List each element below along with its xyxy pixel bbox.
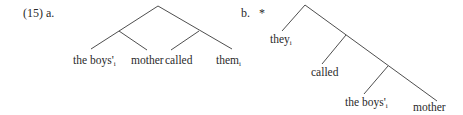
syntax-tree-figure: (15) a. b. * the boys'i mother called th… <box>0 0 463 115</box>
leaf-text: the boys' <box>345 96 386 108</box>
tree-b-edge-spine <box>305 5 437 101</box>
leaf-text: they <box>270 33 290 45</box>
tree-a-leaf-called: called <box>165 54 192 66</box>
coindex-subscript: i <box>239 60 241 68</box>
tree-a-leaf-the-boys: the boys'i <box>73 54 116 70</box>
ungrammatical-star: * <box>259 6 265 20</box>
example-number: (15) a. <box>23 7 54 19</box>
tree-a-leaf-them: themi <box>216 54 241 70</box>
tree-b-edge-root-they <box>282 5 305 31</box>
leaf-text: them <box>216 54 239 66</box>
tree-a-leaf-mother: mother <box>131 54 164 66</box>
coindex-subscript: i <box>114 60 116 68</box>
tree-a-edge-left-mother <box>119 31 147 50</box>
leaf-text: mother <box>131 54 164 66</box>
coindex-subscript: i <box>386 102 388 110</box>
example-number-text: (15) <box>23 6 43 20</box>
example-b-label: b. <box>241 6 250 20</box>
tree-b-leaf-the-boys: the boys'i <box>345 96 388 112</box>
tree-b-edge-boys <box>364 66 388 94</box>
tree-a-edge-root-right <box>158 6 232 49</box>
example-a-label: a. <box>46 6 54 20</box>
tree-a-edge-root-left <box>91 6 158 49</box>
leaf-text: called <box>165 54 192 66</box>
tree-b-edge-called <box>322 35 346 64</box>
coindex-subscript: i <box>290 39 292 47</box>
tree-b-leaf-they: theyi <box>270 33 292 49</box>
leaf-text: called <box>311 66 338 78</box>
example-b-label-group: b. * <box>241 7 265 19</box>
leaf-text: mother <box>413 101 446 113</box>
tree-b-leaf-mother: mother <box>413 101 446 113</box>
leaf-text: the boys' <box>73 54 114 66</box>
tree-b-leaf-called: called <box>311 66 338 78</box>
tree-a-edge-right-called <box>171 31 199 50</box>
